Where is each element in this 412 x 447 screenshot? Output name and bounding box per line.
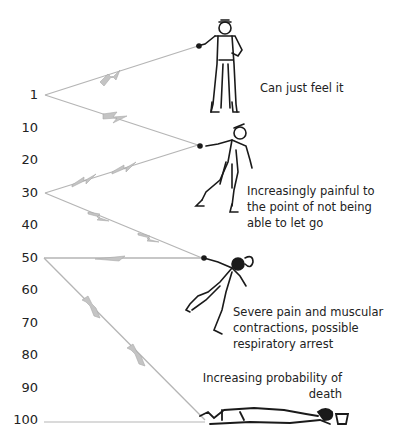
scale-label-60: 60 — [0, 283, 38, 297]
scale-label-1: 1 — [0, 88, 38, 102]
current-line — [44, 258, 205, 420]
caption-line: contractions, possible — [233, 320, 383, 336]
caption-line: Increasingly painful to — [247, 183, 375, 199]
caption-text: Can just feel it — [260, 81, 343, 95]
standing-worker-figure — [197, 20, 242, 112]
lightning-bolt-icon — [127, 344, 145, 366]
caption-line: able to let go — [247, 215, 375, 231]
scale-label-30: 30 — [0, 186, 38, 200]
scale-label-40: 40 — [0, 218, 38, 232]
scale-label-50: 50 — [0, 251, 38, 265]
current-line — [45, 95, 198, 145]
caption-line: Increasing probability of — [192, 370, 342, 386]
caption-stage-2: Increasingly painful to the point of not… — [247, 183, 375, 231]
caption-line: respiratory arrest — [233, 336, 383, 352]
caption-stage-1: Can just feel it — [260, 80, 343, 96]
scale-label-100: 100 — [0, 413, 38, 427]
lightning-bolt-icon — [95, 256, 125, 261]
caption-line: the point of not being — [247, 199, 375, 215]
caption-stage-3: Severe pain and muscular contractions, p… — [233, 304, 383, 352]
lightning-bolt-icon — [138, 233, 159, 242]
lying-worker-figure — [200, 408, 348, 424]
scale-label-10: 10 — [0, 121, 38, 135]
scale-label-90: 90 — [0, 381, 38, 395]
caption-line: death — [192, 386, 342, 402]
lightning-bolt-icon — [82, 296, 100, 318]
scale-label-80: 80 — [0, 348, 38, 362]
scale-label-20: 20 — [0, 153, 38, 167]
caption-stage-4: Increasing probability of death — [192, 370, 342, 402]
lightning-bolt-icon — [112, 162, 136, 174]
lightning-bolt-icon — [103, 112, 127, 123]
lightning-bolt-icon — [88, 212, 109, 221]
staggering-worker-figure — [196, 124, 252, 212]
scale-label-70: 70 — [0, 316, 38, 330]
current-line — [45, 46, 198, 95]
lightning-bolt-icon — [72, 174, 96, 187]
caption-line: Severe pain and muscular — [233, 304, 383, 320]
current-line — [45, 193, 202, 258]
